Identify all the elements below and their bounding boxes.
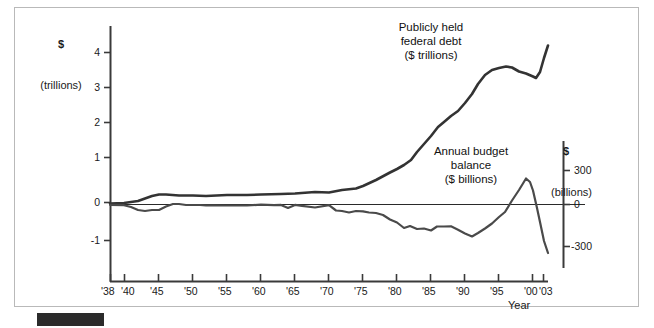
x-tick-label-1965: '65 (286, 285, 300, 297)
left-tick-label-4: 4 (78, 46, 100, 58)
right-tick-label-neg300: -300 (571, 240, 592, 252)
x-tick-label-1980: '80 (388, 285, 402, 297)
x-tick-label-1955: '55 (218, 285, 232, 297)
x-axis-ticks (111, 274, 544, 281)
x-tick-label-2003: '03 (539, 285, 553, 297)
x-tick-label-1940: '40 (121, 285, 135, 297)
left-tick-label-1: 1 (78, 151, 100, 163)
chart-figure: $ (trillions) 4 3 2 1 0 -1 $ (billions) … (0, 0, 654, 328)
right-axis-title-units: (billions) (551, 186, 625, 200)
left-tick-label-3: 3 (78, 81, 100, 93)
x-tick-label-1945: '45 (150, 285, 164, 297)
annotation-budget-balance: Annual budget balance ($ billions) (400, 144, 542, 186)
annotation-federal-debt: Publicly held federal debt ($ trillions) (335, 20, 527, 62)
right-axis-title-currency: $ (551, 145, 581, 159)
left-tick-label-2: 2 (78, 116, 100, 128)
series-budget-balance-line (110, 179, 548, 254)
x-tick-label-1975: '75 (354, 285, 368, 297)
x-tick-label-1990: '90 (456, 285, 470, 297)
x-tick-label-2000: '00 (524, 285, 538, 297)
x-axis-label: Year (508, 299, 530, 312)
x-tick-label-1985: '85 (422, 285, 436, 297)
left-axis-title: $ (trillions) (22, 11, 100, 119)
right-tick-label-300: 300 (574, 164, 592, 176)
x-tick-label-1950: '50 (184, 285, 198, 297)
left-tick-label-neg1: -1 (74, 234, 100, 246)
x-tick-label-1960: '60 (252, 285, 266, 297)
x-tick-label-1995: '95 (490, 285, 504, 297)
caption-swatch (37, 313, 104, 326)
left-tick-label-0: 0 (78, 196, 100, 208)
right-tick-label-0: 0 (574, 198, 580, 210)
x-tick-label-1970: '70 (320, 285, 334, 297)
x-tick-label-1938: '38 (101, 285, 115, 297)
